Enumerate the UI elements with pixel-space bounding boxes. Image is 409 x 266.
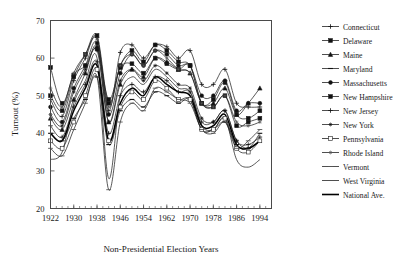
series-marker bbox=[258, 101, 262, 105]
series-marker bbox=[72, 90, 76, 94]
legend-item-label-0: Connecticut bbox=[343, 23, 381, 32]
series-marker bbox=[107, 105, 111, 109]
series-marker bbox=[246, 146, 250, 150]
series-marker bbox=[95, 67, 99, 71]
x-axis-label: Non-Presidential Election Years bbox=[103, 244, 219, 254]
series-marker bbox=[188, 86, 192, 90]
legend-marker-sample bbox=[329, 151, 333, 155]
x-tick-label: 1970 bbox=[182, 213, 199, 223]
series-marker bbox=[235, 139, 239, 143]
series-marker bbox=[200, 101, 204, 105]
chart-figure-root: 203040506070 192219301938194619541962197… bbox=[0, 0, 409, 266]
series-marker bbox=[153, 64, 157, 68]
series-marker bbox=[246, 101, 250, 105]
series-marker bbox=[165, 86, 169, 90]
series-marker bbox=[235, 124, 239, 128]
series-marker bbox=[177, 60, 181, 64]
x-tick-label: 1962 bbox=[158, 213, 175, 223]
series-marker bbox=[142, 79, 146, 83]
chart-svg: 203040506070 192219301938194619541962197… bbox=[0, 0, 409, 266]
series-marker bbox=[118, 79, 122, 83]
legend-item-label-11: West Virginia bbox=[343, 177, 385, 186]
legend-marker-sample bbox=[329, 137, 333, 141]
series-marker bbox=[107, 98, 111, 102]
x-tick-label: 1930 bbox=[65, 213, 82, 223]
legend-marker-sample bbox=[329, 81, 333, 85]
series-marker bbox=[153, 43, 157, 47]
turnout-line-chart: 203040506070 192219301938194619541962197… bbox=[0, 0, 409, 266]
series-marker bbox=[142, 60, 146, 64]
legend-item-label-9: Rhode Island bbox=[343, 149, 383, 158]
y-tick-label: 30 bbox=[36, 166, 45, 176]
series-marker bbox=[223, 79, 227, 83]
series-marker bbox=[60, 146, 64, 150]
series-marker bbox=[130, 62, 134, 66]
series-marker bbox=[258, 116, 262, 120]
y-tick-label: 60 bbox=[36, 53, 45, 63]
x-tick-label: 1922 bbox=[42, 213, 59, 223]
series-marker bbox=[72, 71, 76, 75]
series-marker bbox=[95, 34, 99, 38]
series-marker bbox=[95, 41, 99, 45]
series-marker bbox=[60, 101, 64, 105]
series-marker bbox=[130, 67, 134, 71]
series-marker bbox=[153, 49, 157, 53]
x-tick-label: 1986 bbox=[228, 213, 245, 223]
y-tick-label: 40 bbox=[36, 128, 45, 138]
legend-item-label-8: Pennsylvania bbox=[343, 135, 384, 144]
series-marker bbox=[211, 120, 215, 124]
series-marker bbox=[142, 64, 146, 68]
series-marker bbox=[60, 105, 64, 109]
series-marker bbox=[188, 71, 192, 75]
legend-item-label-12: National Ave. bbox=[343, 191, 385, 200]
series-marker bbox=[83, 67, 87, 71]
legend-item-label-6: New Jersey bbox=[343, 107, 378, 116]
y-tick-label: 50 bbox=[36, 91, 45, 101]
series-marker bbox=[60, 120, 64, 124]
series-marker bbox=[223, 94, 227, 98]
series-marker bbox=[235, 120, 239, 124]
series-marker bbox=[258, 109, 262, 113]
legend-marker-sample bbox=[329, 95, 333, 99]
series-marker bbox=[235, 109, 239, 113]
legend-item-label-4: Massachusetts bbox=[343, 79, 387, 88]
series-marker bbox=[211, 105, 215, 109]
x-tick-label: 1978 bbox=[205, 213, 222, 223]
series-marker bbox=[188, 98, 192, 102]
series-marker bbox=[107, 139, 111, 143]
series-marker bbox=[177, 64, 181, 68]
series-marker bbox=[223, 116, 227, 120]
legend-item-label-10: Vermont bbox=[343, 163, 370, 172]
series-marker bbox=[130, 90, 134, 94]
y-axis-label: Turnout (%) bbox=[10, 92, 20, 136]
series-marker bbox=[246, 124, 250, 128]
legend-marker-sample bbox=[329, 123, 333, 127]
x-tick-label: 1938 bbox=[89, 213, 106, 223]
series-marker bbox=[177, 83, 181, 87]
series-marker bbox=[72, 120, 76, 124]
series-marker bbox=[177, 67, 181, 71]
legend-item-label-1: Delaware bbox=[343, 37, 373, 46]
x-tick-label: 1954 bbox=[135, 213, 153, 223]
series-marker bbox=[60, 124, 64, 128]
series-marker bbox=[165, 52, 169, 56]
series-marker bbox=[258, 120, 262, 124]
x-tick-label: 1946 bbox=[112, 213, 129, 223]
legend-item-label-2: Maine bbox=[343, 51, 363, 60]
series-marker bbox=[153, 79, 157, 83]
series-marker bbox=[107, 113, 111, 117]
series-marker bbox=[118, 105, 122, 109]
y-tick-label: 70 bbox=[36, 16, 45, 26]
series-marker bbox=[142, 98, 146, 102]
series-marker bbox=[165, 49, 169, 53]
series-marker bbox=[165, 71, 169, 75]
series-marker bbox=[107, 120, 111, 124]
series-marker bbox=[165, 56, 169, 60]
series-marker bbox=[211, 128, 215, 132]
legend-item-label-5: New Hampshire bbox=[343, 93, 393, 102]
legend-item-label-3: Maryland bbox=[343, 65, 373, 74]
series-marker bbox=[200, 94, 204, 98]
series-marker bbox=[72, 86, 76, 90]
series-marker bbox=[118, 64, 122, 68]
series-marker bbox=[83, 64, 87, 68]
